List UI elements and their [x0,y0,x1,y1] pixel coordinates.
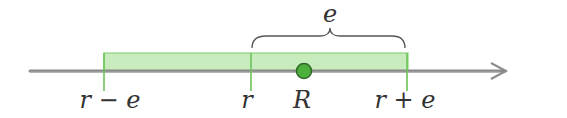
center-label: r [241,86,254,114]
left-endpoint-label: r − e [79,86,140,114]
right-endpoint-label: r + e [374,86,435,114]
interval-band [104,53,408,71]
brace-icon [252,28,405,48]
point-r-dot [297,64,312,79]
point-label: R [292,86,311,114]
brace-label: e [323,0,337,28]
number-line-diagram: e r − e r R r + e [0,0,567,118]
